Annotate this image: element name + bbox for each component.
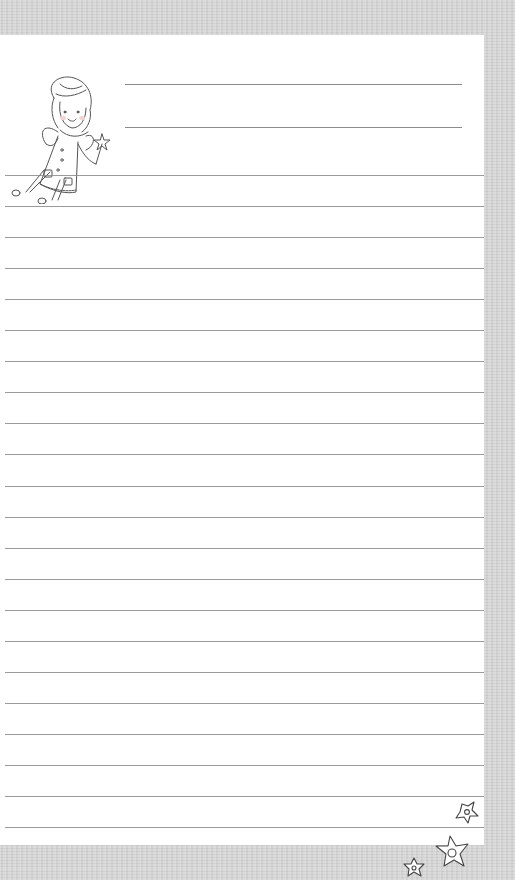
ruled-line	[5, 548, 484, 549]
lined-paper	[0, 35, 484, 845]
header-line-1	[125, 84, 462, 85]
ruled-line	[5, 486, 484, 487]
ruled-line	[5, 672, 484, 673]
ruled-line	[5, 517, 484, 518]
ruled-line	[5, 361, 484, 362]
ruled-line	[5, 703, 484, 704]
header-line-2	[125, 127, 462, 128]
ruled-line	[5, 299, 484, 300]
ruled-line	[5, 206, 484, 207]
ruled-line	[5, 330, 484, 331]
fairy-illustration-icon	[4, 72, 116, 204]
stars-decoration-icon	[400, 790, 484, 880]
ruled-line	[5, 641, 484, 642]
ruled-line	[5, 579, 484, 580]
ruled-line	[5, 765, 484, 766]
ruled-line	[5, 454, 484, 455]
ruled-line	[5, 175, 484, 176]
ruled-line	[5, 392, 484, 393]
ruled-line	[5, 423, 484, 424]
ruled-line	[5, 268, 484, 269]
ruled-line	[5, 237, 484, 238]
ruled-line	[5, 610, 484, 611]
ruled-line	[5, 734, 484, 735]
